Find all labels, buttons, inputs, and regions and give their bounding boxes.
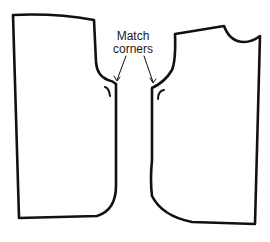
right-arrow-line [144,56,153,82]
right-corner-mark [158,90,164,99]
left-corner-mark [105,87,110,96]
left-arrow-line [117,56,126,80]
left-arrowhead [114,76,120,81]
left-pattern-piece [13,15,116,218]
right-pattern-piece [151,26,260,224]
match-corners-label-line2: corners [103,43,163,56]
